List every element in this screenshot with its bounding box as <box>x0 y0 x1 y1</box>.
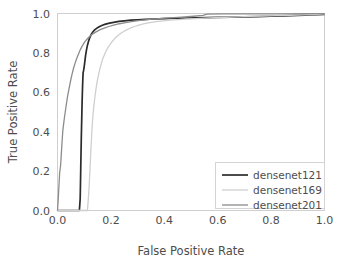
y-tick-label: 0.2 <box>33 165 51 178</box>
roc-plot-svg: 0.00.20.40.60.81.0 0.00.20.40.60.81.0 Fa… <box>0 0 344 266</box>
roc-chart-figure: 0.00.20.40.60.81.0 0.00.20.40.60.81.0 Fa… <box>0 0 344 266</box>
x-axis-tick-labels: 0.00.20.40.60.81.0 <box>49 214 334 227</box>
y-tick-label: 0.8 <box>33 47 51 60</box>
y-tick-label: 0.0 <box>33 205 51 218</box>
x-tick-label: 0.0 <box>49 214 67 227</box>
x-axis-title: False Positive Rate <box>138 244 245 258</box>
legend-label-densenet121: densenet121 <box>253 169 322 181</box>
y-tick-label: 0.4 <box>33 126 51 139</box>
y-tick-label: 1.0 <box>33 8 51 21</box>
x-tick-label: 0.4 <box>156 214 174 227</box>
legend-items: densenet121densenet169densenet201 <box>222 169 322 211</box>
chart-legend: densenet121densenet169densenet201 <box>216 163 325 212</box>
y-axis-title: True Positive Rate <box>6 61 20 164</box>
x-tick-label: 1.0 <box>316 214 334 227</box>
x-tick-label: 0.8 <box>262 214 280 227</box>
y-axis-tick-labels: 0.00.20.40.60.81.0 <box>33 8 51 218</box>
x-tick-label: 0.6 <box>209 214 227 227</box>
x-tick-label: 0.2 <box>102 214 120 227</box>
legend-label-densenet201: densenet201 <box>253 199 322 211</box>
y-tick-label: 0.6 <box>33 86 51 99</box>
legend-label-densenet169: densenet169 <box>253 184 322 196</box>
